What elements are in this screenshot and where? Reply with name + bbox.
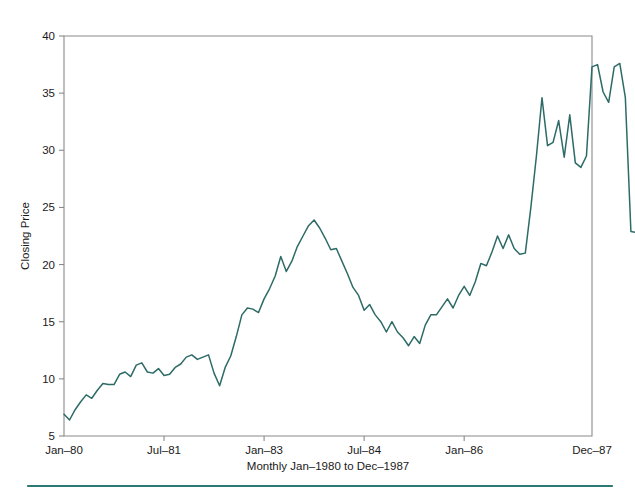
x-axis-title: Monthly Jan–1980 to Dec–1987: [247, 460, 409, 472]
y-axis-title: Closing Price: [19, 202, 31, 270]
y-tick-label: 15: [42, 316, 55, 328]
x-tick-label: Dec–87: [572, 444, 612, 456]
x-tick-label: Jan–80: [45, 444, 83, 456]
y-tick-label: 10: [42, 373, 55, 385]
y-tick-label: 30: [42, 144, 55, 156]
x-tick-label: Jan–86: [445, 444, 483, 456]
y-tick-label: 40: [42, 30, 55, 42]
x-tick-label: Jul–81: [147, 444, 181, 456]
y-tick-label: 20: [42, 259, 55, 271]
y-tick-label: 25: [42, 201, 55, 213]
y-tick-label: 35: [42, 87, 55, 99]
y-tick-label: 5: [49, 430, 55, 442]
figure-background: [0, 0, 635, 502]
closing-price-line-chart: 510152025303540 Jan–80Jul–81Jan–83Jul–84…: [0, 0, 635, 502]
x-tick-label: Jul–84: [347, 444, 381, 456]
chart-figure: 510152025303540 Jan–80Jul–81Jan–83Jul–84…: [0, 0, 635, 502]
x-tick-label: Jan–83: [245, 444, 283, 456]
